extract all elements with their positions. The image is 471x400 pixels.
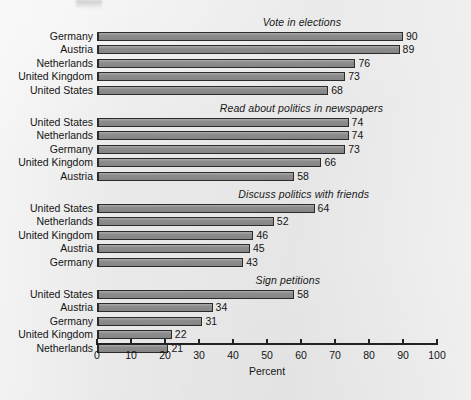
chart-bar-row: United Kingdom46	[0, 230, 471, 243]
bar-value-label: 74	[352, 117, 364, 128]
bar	[97, 118, 349, 127]
panel-title: Read about politics in newspapers	[0, 102, 383, 114]
axis-tick-label: 10	[125, 349, 137, 361]
axis-tick	[232, 339, 234, 345]
bar-value-label: 68	[331, 85, 343, 96]
chart-bar-row: United Kingdom66	[0, 157, 471, 170]
bar	[97, 231, 253, 240]
axis-tick-label: 90	[397, 349, 409, 361]
bar	[97, 131, 349, 140]
category-label: Netherlands	[36, 216, 93, 227]
bar	[97, 244, 250, 253]
axis-tick	[164, 339, 166, 345]
panel-title: Sign petitions	[0, 274, 320, 286]
axis-tick	[436, 339, 438, 345]
category-label: Austria	[60, 44, 93, 55]
chart-bar-row: United Kingdom22	[0, 329, 471, 342]
bar-value-label: 46	[256, 230, 268, 241]
axis-tick-label: 70	[329, 349, 341, 361]
chart-bar-row: Austria34	[0, 302, 471, 315]
category-label: United Kingdom	[18, 329, 93, 340]
bar	[97, 303, 213, 312]
scan-artifact	[76, 0, 102, 9]
chart-bar-row: Netherlands52	[0, 216, 471, 229]
bar-value-label: 76	[358, 58, 370, 69]
category-label: United Kingdom	[18, 71, 93, 82]
bar-value-label: 66	[324, 157, 336, 168]
category-label: United States	[30, 203, 93, 214]
bar-value-label: 22	[175, 329, 187, 340]
bar	[97, 45, 400, 54]
chart-bar-row: Austria45	[0, 243, 471, 256]
axis-tick	[96, 339, 98, 345]
axis-tick-label: 20	[159, 349, 171, 361]
category-label: United States	[30, 117, 93, 128]
category-label: United States	[30, 85, 93, 96]
bar	[97, 258, 243, 267]
bar-value-label: 34	[216, 302, 228, 313]
axis-tick	[368, 339, 370, 345]
bar	[97, 145, 345, 154]
bar	[97, 217, 274, 226]
chart-bar-row: United States64	[0, 203, 471, 216]
bar-value-label: 64	[318, 203, 330, 214]
x-axis: 0102030405060708090100 Percent	[0, 343, 471, 400]
axis-tick-label: 40	[227, 349, 239, 361]
bar	[97, 59, 355, 68]
chart-canvas: Vote in electionsGermany90Austria89Nethe…	[0, 0, 471, 400]
axis-tick-label: 0	[94, 349, 100, 361]
chart-bar-row: Germany73	[0, 144, 471, 157]
category-label: Netherlands	[36, 130, 93, 141]
axis-tick-label: 50	[261, 349, 273, 361]
axis-tick	[198, 339, 200, 345]
axis-tick	[300, 339, 302, 345]
axis-tick	[334, 339, 336, 345]
axis-tick	[130, 339, 132, 345]
chart-bar-row: Netherlands74	[0, 130, 471, 143]
axis-tick-label: 30	[193, 349, 205, 361]
chart-bar-row: Austria58	[0, 171, 471, 184]
chart-bar-row: United States58	[0, 289, 471, 302]
bar-value-label: 73	[348, 144, 360, 155]
bar-value-label: 89	[403, 44, 415, 55]
category-label: Austria	[60, 302, 93, 313]
bar-value-label: 58	[297, 171, 309, 182]
category-label: Germany	[50, 257, 93, 268]
bar	[97, 317, 202, 326]
bar	[97, 72, 345, 81]
axis-tick-label: 100	[428, 349, 446, 361]
bar-value-label: 58	[297, 289, 309, 300]
bar	[97, 290, 294, 299]
bar-value-label: 73	[348, 71, 360, 82]
bar-value-label: 90	[406, 31, 418, 42]
category-label: Netherlands	[36, 58, 93, 69]
bar-value-label: 45	[253, 243, 265, 254]
chart-bar-row: United States68	[0, 85, 471, 98]
bar	[97, 32, 403, 41]
chart-bar-row: Austria89	[0, 44, 471, 57]
chart-bar-row: United States74	[0, 117, 471, 130]
category-label: Austria	[60, 243, 93, 254]
chart-bar-row: Germany90	[0, 31, 471, 44]
axis-title: Percent	[249, 365, 285, 377]
axis-tick	[402, 339, 404, 345]
bar-value-label: 31	[205, 316, 217, 327]
category-label: Germany	[50, 316, 93, 327]
axis-tick-label: 60	[295, 349, 307, 361]
chart-bar-row: Netherlands76	[0, 58, 471, 71]
category-label: Germany	[50, 31, 93, 42]
bar-value-label: 74	[352, 130, 364, 141]
chart-bar-row: Germany31	[0, 316, 471, 329]
bar	[97, 330, 172, 339]
panel-title: Discuss politics with friends	[0, 188, 369, 200]
category-label: United Kingdom	[18, 157, 93, 168]
bar-value-label: 43	[246, 257, 258, 268]
axis-tick	[266, 339, 268, 345]
chart-bar-row: United Kingdom73	[0, 71, 471, 84]
bar	[97, 172, 294, 181]
category-label: Austria	[60, 171, 93, 182]
bar	[97, 86, 328, 95]
bar-value-label: 52	[277, 216, 289, 227]
category-label: United States	[30, 289, 93, 300]
chart-bar-row: Germany43	[0, 257, 471, 270]
